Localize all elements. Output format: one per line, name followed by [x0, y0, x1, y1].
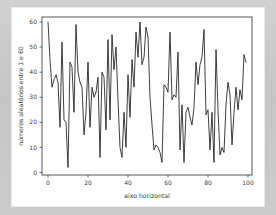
x-tick-label: 60 — [164, 179, 172, 186]
x-tick-label: 100 — [242, 179, 254, 186]
line-chart: 020406080100 0102030405060 eixo horizont… — [12, 8, 264, 206]
x-tick-label: 40 — [124, 179, 132, 186]
figure-card: 020406080100 0102030405060 eixo horizont… — [12, 8, 264, 206]
y-tick-label: 60 — [29, 18, 37, 25]
x-tick-labels: 020406080100 — [46, 179, 254, 186]
y-tick-label: 40 — [29, 68, 37, 75]
y-tick-label: 0 — [33, 169, 37, 176]
x-tick-label: 20 — [84, 179, 92, 186]
x-tick-label: 80 — [204, 179, 212, 186]
plot-area: 020406080100 0102030405060 eixo horizont… — [12, 8, 264, 206]
y-tick-label: 10 — [29, 144, 37, 151]
data-series-line — [48, 22, 246, 167]
x-axis-label: eixo horizontal — [124, 192, 170, 199]
y-tick-label: 30 — [29, 93, 37, 100]
y-tick-label: 20 — [29, 118, 37, 125]
y-tick-label: 50 — [29, 43, 37, 50]
y-tick-labels: 0102030405060 — [29, 18, 37, 175]
screenshot-root: 020406080100 0102030405060 eixo horizont… — [0, 0, 276, 215]
x-tick-label: 0 — [46, 179, 50, 186]
y-axis-label: números aleatórios entre 1 e 60 — [17, 46, 24, 146]
